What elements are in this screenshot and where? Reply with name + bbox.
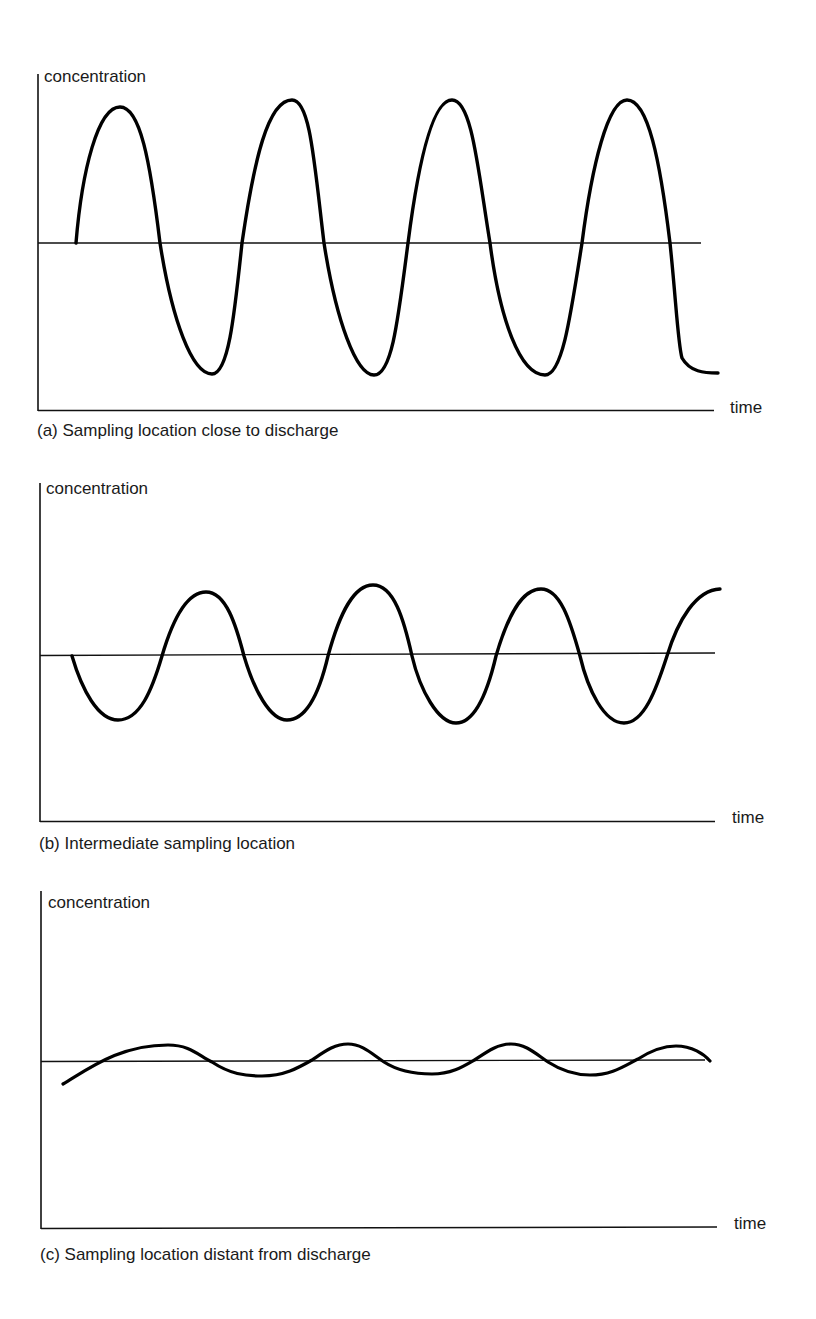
panel-a-concentration-curve bbox=[76, 100, 718, 375]
panel-a-caption: (a) Sampling location close to discharge bbox=[37, 421, 338, 441]
panel-c-x-axis-label: time bbox=[734, 1214, 766, 1234]
panel-b-mean-line bbox=[40, 653, 715, 656]
panel-c bbox=[41, 891, 717, 1229]
panel-c-mean-line bbox=[41, 1060, 705, 1062]
panel-b-y-axis-label: concentration bbox=[46, 479, 148, 499]
panel-c-x-axis bbox=[41, 1227, 717, 1229]
panel-a bbox=[38, 74, 718, 411]
panel-c-caption: (c) Sampling location distant from disch… bbox=[40, 1245, 371, 1265]
panel-a-y-axis-label: concentration bbox=[44, 67, 146, 87]
panel-b-caption: (b) Intermediate sampling location bbox=[39, 834, 295, 854]
panel-c-concentration-curve bbox=[63, 1044, 710, 1084]
panel-b bbox=[40, 483, 720, 822]
panel-c-y-axis-label: concentration bbox=[48, 893, 150, 913]
panel-b-x-axis-label: time bbox=[732, 808, 764, 828]
figure-canvas bbox=[0, 0, 816, 1319]
panel-a-x-axis-label: time bbox=[730, 398, 762, 418]
